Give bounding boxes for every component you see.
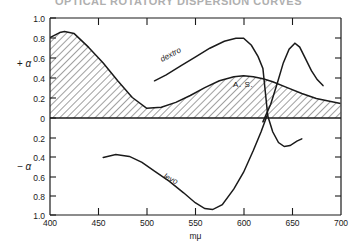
x-tick-label: 500 (140, 218, 154, 228)
dextro-curve-label: dextro (159, 45, 183, 64)
y-tick-label: 0.2 (33, 94, 45, 104)
x-axis-label: mμ (190, 231, 202, 241)
x-tick-label: 550 (188, 218, 202, 228)
y-tick-label: 0.6 (33, 54, 45, 64)
x-tick-label: 700 (334, 218, 348, 228)
x-tick-label: 400 (43, 218, 57, 228)
y-tick-label: 0.4 (33, 153, 45, 163)
levo-curve (103, 116, 267, 210)
y-axis-label-positive: + α (17, 58, 32, 69)
y-tick-label: 0.8 (33, 192, 45, 202)
ord-figure: OPTICAL ROTATORY DISPERSION CURVES (0, 0, 357, 248)
y-tick-labels-lower: 0.2 0.4 0.6 0.8 1.0 (33, 134, 45, 221)
y-tick-label: 0.4 (33, 74, 45, 84)
y-tick-label: 0.8 (33, 34, 45, 44)
y-tick-label: 0.6 (33, 173, 45, 183)
x-tick-label: 600 (237, 218, 251, 228)
ord-plot: 1.0 0.8 0.6 0.4 0.2 0 0.2 0.4 0.6 0.8 1.… (0, 0, 357, 248)
y-axis-label-negative: − α (17, 161, 32, 172)
y-tick-label: 0.2 (33, 134, 45, 144)
y-tick-label: 0 (40, 114, 45, 124)
y-tick-label: 1.0 (33, 14, 45, 24)
levo-curve-label: levo (162, 172, 180, 187)
figure-title: OPTICAL ROTATORY DISPERSION CURVES (55, 0, 302, 7)
y-tick-labels-upper: 1.0 0.8 0.6 0.4 0.2 0 (33, 14, 45, 124)
x-tick-labels: 400 450 500 550 600 650 700 (43, 218, 348, 228)
x-tick-label: 450 (91, 218, 105, 228)
x-tick-label: 650 (285, 218, 299, 228)
as-annotation-label: A. S. (233, 80, 253, 89)
figure-title-strip: OPTICAL ROTATORY DISPERSION CURVES (0, 0, 357, 9)
y-axis-ticks-lower (50, 138, 56, 215)
